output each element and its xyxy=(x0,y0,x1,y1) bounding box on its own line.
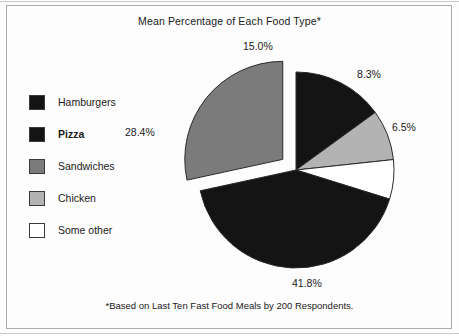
legend-label-hamburgers: Hamburgers xyxy=(58,96,116,108)
chart-title: Mean Percentage of Each Food Type* xyxy=(0,15,459,27)
frame-rule-top xyxy=(0,1,459,2)
legend-swatch-hamburgers xyxy=(29,95,45,110)
pie-svg xyxy=(165,48,415,288)
legend-item-hamburgers[interactable]: Hamburgers xyxy=(29,86,169,118)
frame-rule-bottom xyxy=(0,333,459,334)
pie-graphic xyxy=(165,48,415,288)
chart-footnote: *Based on Last Ten Fast Food Meals by 20… xyxy=(0,300,459,311)
value-label-sandwiches: 28.4% xyxy=(125,126,155,138)
legend-label-someother: Some other xyxy=(58,224,112,236)
value-label-hamburgers: 15.0% xyxy=(243,40,273,52)
legend-label-chicken: Chicken xyxy=(58,192,96,204)
legend-swatch-someother xyxy=(29,223,45,238)
legend-swatch-sandwiches xyxy=(29,159,45,174)
pie-slice-sandwiches[interactable] xyxy=(185,61,283,180)
legend-swatch-chicken xyxy=(29,191,45,206)
legend-item-chicken[interactable]: Chicken xyxy=(29,182,169,214)
legend-swatch-pizza xyxy=(29,127,45,142)
value-label-pizza: 41.8% xyxy=(292,277,322,289)
legend-item-sandwiches[interactable]: Sandwiches xyxy=(29,150,169,182)
legend: Hamburgers Pizza Sandwiches Chicken Some… xyxy=(29,86,169,246)
pie-chart-figure: Mean Percentage of Each Food Type* Hambu… xyxy=(0,0,459,336)
value-label-chicken: 8.3% xyxy=(357,68,381,80)
legend-label-sandwiches: Sandwiches xyxy=(58,160,115,172)
legend-item-someother[interactable]: Some other xyxy=(29,214,169,246)
legend-label-pizza: Pizza xyxy=(58,128,84,140)
value-label-someother: 6.5% xyxy=(392,121,416,133)
